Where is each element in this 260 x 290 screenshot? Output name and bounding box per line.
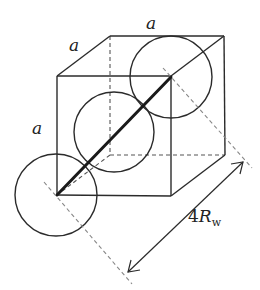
- cube-edges: [57, 36, 225, 196]
- label-edge-left: a: [32, 118, 42, 138]
- hidden-edges: [57, 36, 225, 195]
- extension-line-left: [44, 182, 132, 284]
- cube-diagram: a a a 4Rw: [0, 0, 260, 290]
- dimension-arrow: [128, 162, 243, 272]
- label-edge-top: a: [146, 13, 156, 33]
- label-dimension-symbol: R: [198, 206, 212, 226]
- label-dimension-subscript: w: [212, 216, 222, 229]
- front-bottom-edge: [57, 195, 171, 196]
- top-right-depth-edge: [171, 36, 224, 76]
- label-dimension-prefix: 4: [188, 206, 199, 226]
- hidden-edge-depth: [57, 155, 110, 195]
- atom-center: [74, 92, 154, 172]
- label-dimension: 4Rw: [188, 206, 222, 229]
- dimension-arrow-line: [128, 162, 243, 272]
- label-edge-depth: a: [69, 35, 79, 55]
- top-left-depth-edge: [57, 36, 110, 76]
- bottom-right-depth-edge: [171, 155, 225, 196]
